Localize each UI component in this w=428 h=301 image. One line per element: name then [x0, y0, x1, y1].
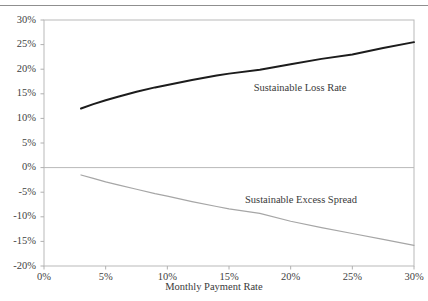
- y-tick-label: -15%: [2, 236, 36, 246]
- series-line: [81, 42, 414, 108]
- y-tick-label: 5%: [2, 138, 36, 148]
- plot-frame: [44, 20, 414, 266]
- x-axis-title: Monthly Payment Rate: [0, 281, 428, 292]
- series-label: Sustainable Loss Rate: [254, 82, 347, 93]
- y-tick-label: 15%: [2, 88, 36, 98]
- plot-tick-marks: [41, 20, 415, 270]
- y-tick-label: 0%: [2, 162, 36, 172]
- y-tick-label: -5%: [2, 187, 36, 197]
- plot-canvas: [0, 0, 428, 301]
- y-tick-label: 30%: [2, 15, 36, 25]
- y-tick-label: -10%: [2, 211, 36, 221]
- y-tick-label: 25%: [2, 39, 36, 49]
- y-tick-label: -20%: [2, 261, 36, 271]
- series-line: [81, 175, 414, 245]
- y-tick-label: 10%: [2, 113, 36, 123]
- series-label: Sustainable Excess Spread: [245, 194, 357, 205]
- chart-figure: 30%25%20%15%10%5%0%-5%-10%-15%-20% 0%5%1…: [0, 0, 428, 301]
- y-tick-label: 20%: [2, 64, 36, 74]
- series-lines: [81, 42, 414, 245]
